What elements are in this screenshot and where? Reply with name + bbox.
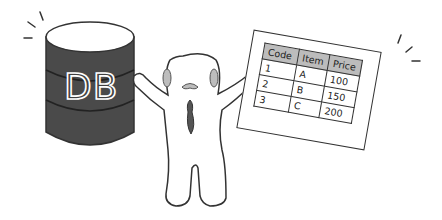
database-label: DB (64, 69, 118, 105)
illustration-canvas (0, 0, 442, 220)
emphasis-lines-left (24, 12, 43, 38)
right-cheek-icon (210, 69, 218, 87)
left-cheek-icon (163, 69, 171, 87)
data-table: Code Item Price 1 A 100 2 B 150 3 C 200 (253, 43, 363, 124)
character-figure (134, 54, 259, 206)
emphasis-lines-right (398, 35, 420, 61)
mouth-icon (187, 100, 193, 134)
